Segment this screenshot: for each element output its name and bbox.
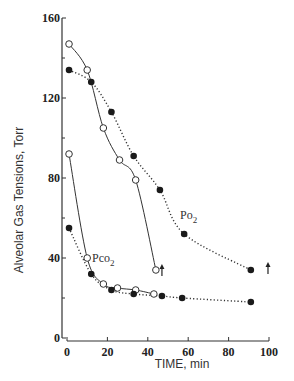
- filled-circle-marker: [130, 291, 137, 298]
- series-line: [69, 154, 154, 294]
- pco2-label: Pco2: [92, 251, 115, 268]
- x-axis-title: TIME, min: [155, 357, 210, 371]
- filled-circle-marker: [66, 225, 73, 232]
- x-tick-label: 40: [142, 345, 154, 359]
- filled-circle-marker: [181, 231, 188, 238]
- filled-circle-marker: [66, 67, 73, 74]
- open-circle-marker: [66, 151, 73, 158]
- y-tick-label: 40: [48, 251, 60, 265]
- filled-circle-marker: [130, 153, 137, 160]
- open-circle-marker: [84, 67, 91, 74]
- filled-circle-marker: [88, 271, 95, 278]
- y-axis-title: Alveolar Gas Tensions, Torr: [12, 127, 26, 273]
- y-tick-label: 80: [48, 171, 60, 185]
- filled-circle-marker: [88, 79, 95, 86]
- x-tick-label: 20: [101, 345, 113, 359]
- series-line: [69, 44, 156, 270]
- open-circle-marker: [114, 285, 121, 292]
- axes: 04080120160020406080100: [42, 11, 278, 359]
- y-tick-label: 0: [54, 331, 60, 345]
- up-arrow-icon: [265, 262, 270, 274]
- filled-circle-marker: [179, 295, 186, 302]
- x-tick-label: 0: [64, 345, 70, 359]
- open-circle-marker: [66, 41, 73, 48]
- x-tick-label: 100: [260, 345, 278, 359]
- open-circle-marker: [132, 177, 139, 184]
- series-markers: [66, 41, 254, 306]
- open-circle-marker: [151, 291, 158, 298]
- open-circle-marker: [153, 267, 160, 274]
- series-line: [69, 70, 251, 270]
- filled-circle-marker: [248, 299, 255, 306]
- open-circle-marker: [100, 281, 107, 288]
- series-line: [69, 228, 251, 302]
- filled-circle-marker: [248, 267, 255, 274]
- chart: 04080120160020406080100 Po2 Pco2 Alveola…: [0, 0, 294, 381]
- y-tick-label: 160: [42, 11, 60, 25]
- x-tick-label: 80: [223, 345, 235, 359]
- up-arrow-icon: [159, 264, 164, 276]
- filled-circle-marker: [108, 287, 115, 294]
- open-circle-marker: [116, 157, 123, 164]
- open-circle-marker: [84, 255, 91, 262]
- open-circle-marker: [100, 125, 107, 132]
- filled-circle-marker: [157, 187, 164, 194]
- y-tick-label: 120: [42, 91, 60, 105]
- filled-circle-marker: [159, 293, 166, 300]
- po2-label: Po2: [180, 208, 197, 225]
- filled-circle-marker: [108, 109, 115, 116]
